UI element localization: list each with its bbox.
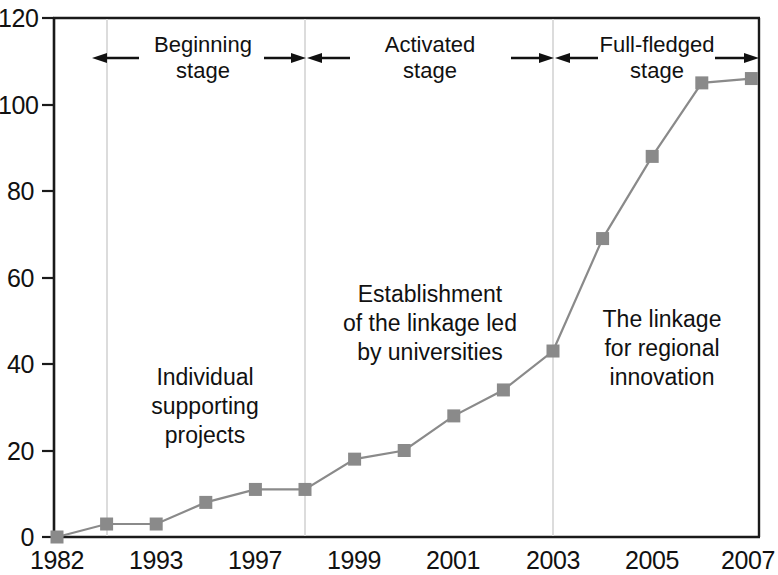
arrow-fullfledged-right-head bbox=[744, 53, 759, 63]
stage-annotation-beginning: Beginning stage bbox=[154, 32, 252, 84]
region-annotation-establishment-line1: Establishment bbox=[343, 280, 517, 309]
data-point-marker bbox=[348, 453, 361, 466]
region-annotation-linkage-regional-innovation: The linkage for regional innovation bbox=[603, 305, 722, 392]
data-point-marker bbox=[249, 483, 262, 496]
data-point-marker bbox=[596, 232, 609, 245]
y-tick-label-100: 100 bbox=[0, 91, 34, 120]
stage-annotation-full-fledged-line2: stage bbox=[600, 58, 715, 84]
stage-annotation-activated: Activated stage bbox=[385, 32, 476, 84]
stage-dividers bbox=[107, 19, 553, 536]
region-annotation-individual-supporting-projects: Individual supporting projects bbox=[151, 363, 258, 450]
data-point-marker bbox=[51, 531, 64, 544]
region-annotation-regional-line2: for regional bbox=[603, 334, 722, 363]
stage-annotation-full-fledged-line1: Full-fledged bbox=[600, 32, 715, 58]
plot-frame bbox=[53, 18, 760, 538]
y-axis-ticks bbox=[42, 18, 54, 537]
x-tick-label-1982: 1982 bbox=[30, 546, 84, 575]
data-point-marker bbox=[447, 409, 460, 422]
arrow-activated-right-head bbox=[539, 53, 554, 63]
x-tick-label-1997: 1997 bbox=[228, 546, 282, 575]
region-annotation-individual-line1: Individual bbox=[151, 363, 258, 392]
region-annotation-establishment-linkage: Establishment of the linkage led by univ… bbox=[343, 280, 517, 367]
x-tick-label-1993: 1993 bbox=[129, 546, 183, 575]
region-annotation-individual-line2: supporting bbox=[151, 392, 258, 421]
x-tick-label-2007: 2007 bbox=[721, 546, 775, 575]
x-tick-label-1999: 1999 bbox=[327, 546, 381, 575]
x-tick-label-2001: 2001 bbox=[426, 546, 480, 575]
arrow-beginning-right-head bbox=[291, 53, 306, 63]
y-tick-label-0: 0 bbox=[0, 523, 34, 552]
y-tick-label-60: 60 bbox=[0, 264, 34, 293]
data-point-marker bbox=[199, 496, 212, 509]
data-point-marker bbox=[299, 483, 312, 496]
region-annotation-establishment-line3: by universities bbox=[343, 338, 517, 367]
x-tick-label-2005: 2005 bbox=[625, 546, 679, 575]
x-tick-label-2003: 2003 bbox=[526, 546, 580, 575]
data-point-marker bbox=[497, 383, 510, 396]
stage-annotation-activated-line2: stage bbox=[385, 58, 476, 84]
arrow-fullfledged-left-head bbox=[555, 53, 570, 63]
data-point-marker bbox=[646, 150, 659, 163]
y-tick-label-40: 40 bbox=[0, 350, 34, 379]
region-annotation-regional-line1: The linkage bbox=[603, 305, 722, 334]
arrow-activated-left-head bbox=[307, 53, 322, 63]
region-annotation-individual-line3: projects bbox=[151, 421, 258, 450]
y-tick-label-80: 80 bbox=[0, 177, 34, 206]
stage-annotation-beginning-line1: Beginning bbox=[154, 32, 252, 58]
data-point-marker bbox=[398, 444, 411, 457]
stage-annotation-beginning-line2: stage bbox=[154, 58, 252, 84]
data-point-marker bbox=[100, 518, 113, 531]
stage-annotation-activated-line1: Activated bbox=[385, 32, 476, 58]
data-point-marker bbox=[150, 518, 163, 531]
region-annotation-establishment-line2: of the linkage led bbox=[343, 309, 517, 338]
data-point-marker bbox=[745, 72, 758, 85]
y-tick-label-120: 120 bbox=[0, 4, 34, 33]
chart-figure: 120 100 80 60 40 20 0 1982 1993 1997 199… bbox=[0, 0, 778, 575]
stage-annotation-full-fledged: Full-fledged stage bbox=[600, 32, 715, 84]
data-point-marker bbox=[547, 345, 560, 358]
arrow-beginning-left-head bbox=[92, 53, 107, 63]
y-tick-label-20: 20 bbox=[0, 437, 34, 466]
region-annotation-regional-line3: innovation bbox=[603, 363, 722, 392]
